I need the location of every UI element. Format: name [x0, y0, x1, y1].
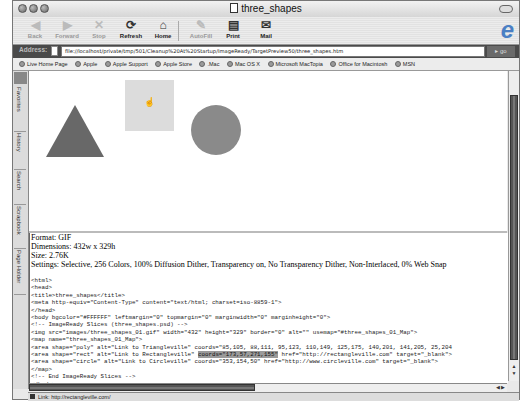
mail-icon: ✉	[246, 19, 286, 32]
mail-label: Mail	[260, 33, 272, 39]
status-icon	[30, 394, 35, 399]
code-line: <img src="images/three_shapes_01.gif" wi…	[31, 329, 508, 336]
globe-icon	[199, 61, 205, 67]
toolbar-separator	[178, 21, 179, 41]
tab-label: History	[16, 133, 22, 152]
go-label: go	[500, 48, 507, 54]
page-icon[interactable]	[51, 46, 58, 56]
code-line: <meta http-equiv="Content-Type" content=…	[31, 299, 508, 306]
link-label: MSN	[403, 61, 415, 67]
code-text: <area shape="rect" alt="Link to Rectangl…	[31, 351, 198, 358]
toolbar: ◀Back ▶Forward ✕Stop ⟳Refresh ⌂Home ✎Aut…	[13, 17, 519, 45]
link-msn[interactable]: MSN	[395, 58, 415, 70]
triangle-image-map-link[interactable]	[46, 105, 104, 157]
globe-icon	[395, 61, 401, 67]
title-bar[interactable]: three_shapes	[13, 1, 519, 18]
internet-explorer-logo-icon: e	[501, 18, 514, 42]
code-line: </map>	[31, 366, 508, 373]
code-line: <html>	[31, 277, 508, 284]
link-label: Microsoft MacTopia	[276, 61, 323, 67]
link-label: .Mac	[207, 61, 219, 67]
code-line: <!-- ImageReady Slices (three_shapes.psd…	[31, 321, 508, 328]
sidebar-tab-history[interactable]: History	[14, 131, 26, 170]
horizontal-scroll-thumb[interactable]	[29, 384, 255, 391]
browser-window: three_shapes ◀Back ▶Forward ✕Stop ⟳Refre…	[12, 0, 520, 400]
window-title-text: three_shapes	[241, 3, 302, 14]
scroll-down-arrow-icon[interactable]: ▼	[510, 370, 518, 376]
globe-icon	[105, 61, 111, 67]
code-line: <title>three_shapes</title>	[31, 292, 508, 299]
explorer-sidebar: Favorites History Search Scrapbook Page …	[13, 71, 29, 389]
globe-icon	[227, 61, 233, 67]
window-title: three_shapes	[13, 3, 519, 14]
link-microsoft-mactopia[interactable]: Microsoft MacTopia	[268, 58, 323, 70]
optimization-info-panel: Format: GIF Dimensions: 432w x 329h Size…	[29, 233, 508, 383]
hand-cursor-icon: ☝	[144, 97, 155, 107]
status-text: Link: http://rectangleville.com/	[38, 394, 110, 400]
tab-label: Favorites	[16, 87, 22, 112]
highlighted-coords: coords="173,57,271,155"	[198, 351, 278, 358]
sidebar-toggle-icon[interactable]	[14, 72, 27, 84]
tab-label: Scrapbook	[16, 206, 22, 235]
document-icon	[230, 3, 238, 13]
link-label: Mac OS X	[235, 61, 260, 67]
address-bar: Address: file://localhost/private/tmp/50…	[13, 45, 519, 58]
address-label: Address:	[19, 46, 47, 53]
horizontal-scrollbar[interactable]: ◀ ▶	[29, 383, 507, 392]
settings-text: Settings: Selective, 256 Colors, 100% Di…	[31, 260, 508, 269]
size-text: Size: 2.76K	[31, 251, 508, 260]
go-button[interactable]: ▸ go	[487, 46, 515, 57]
code-line: <body bgcolor="#FFFFFF" leftmargin="0" t…	[31, 314, 508, 321]
globe-icon	[155, 61, 161, 67]
globe-icon	[268, 61, 274, 67]
vertical-scrollbar[interactable]: ▲ ▼	[508, 71, 519, 381]
home-label: Home	[155, 33, 172, 39]
home-button[interactable]: ⌂Home	[143, 19, 183, 39]
sidebar-tab-page-holder[interactable]: Page Holder	[14, 248, 26, 295]
stop-label: Stop	[92, 33, 105, 39]
print-label: Print	[226, 33, 240, 39]
globe-icon	[19, 61, 25, 67]
sidebar-tab-favorites[interactable]: Favorites	[14, 85, 26, 132]
scroll-left-right-arrows-icon[interactable]: ◀ ▶	[496, 384, 505, 391]
link-office-for-macintosh[interactable]: Office for Macintosh	[330, 58, 387, 70]
sidebar-tab-scrapbook[interactable]: Scrapbook	[14, 204, 26, 249]
code-line: <map name="three_shapes_01_Map">	[31, 336, 508, 343]
globe-icon	[75, 61, 81, 67]
vertical-scroll-thumb[interactable]	[510, 95, 518, 360]
link-mac-os-x[interactable]: Mac OS X	[227, 58, 260, 70]
forward-label: Forward	[55, 33, 79, 39]
link-label: Apple Support	[113, 61, 148, 67]
link-apple-support[interactable]: Apple Support	[105, 58, 148, 70]
code-line: <!-- End ImageReady Slices -->	[31, 373, 508, 380]
link-apple[interactable]: Apple	[75, 58, 97, 70]
link-label: Apple	[83, 61, 97, 67]
link-apple-store[interactable]: Apple Store	[155, 58, 192, 70]
tab-label: Page Holder	[16, 250, 22, 283]
link-live-home-page[interactable]: Live Home Page	[19, 58, 68, 70]
code-line: <head>	[31, 284, 508, 291]
html-source-code: <html><head><title>three_shapes</title><…	[31, 277, 508, 388]
autofill-label: AutoFill	[190, 33, 212, 39]
link-dotmac[interactable]: .Mac	[199, 58, 219, 70]
image-preview: ☝	[29, 71, 507, 231]
globe-icon	[330, 61, 336, 67]
address-input[interactable]: file://localhost/private/tmp/501/Cleanup…	[61, 46, 485, 57]
link-label: Apple Store	[163, 61, 192, 67]
mail-button[interactable]: ✉Mail	[246, 19, 286, 39]
toolbar-toggle-button[interactable]	[499, 5, 513, 13]
code-text: href="http://rectangleville.com" target=…	[278, 351, 452, 358]
link-label: Live Home Page	[27, 61, 68, 67]
refresh-label: Refresh	[120, 33, 142, 39]
back-label: Back	[28, 33, 42, 39]
favorites-links-bar: Live Home Page Apple Apple Support Apple…	[13, 58, 519, 71]
status-bar: Link: http://rectangleville.com/	[28, 392, 519, 401]
code-line: </head>	[31, 307, 508, 314]
circle-image-map-link[interactable]	[191, 105, 241, 155]
sidebar-tab-search[interactable]: Search	[14, 169, 26, 205]
code-line: <area shape="circle" alt="Link to Circle…	[31, 358, 508, 365]
link-label: Office for Macintosh	[338, 61, 387, 67]
scroll-up-arrow-icon[interactable]: ▲	[510, 363, 518, 369]
tab-label: Search	[16, 171, 22, 190]
dimensions-text: Dimensions: 432w x 329h	[31, 242, 508, 251]
